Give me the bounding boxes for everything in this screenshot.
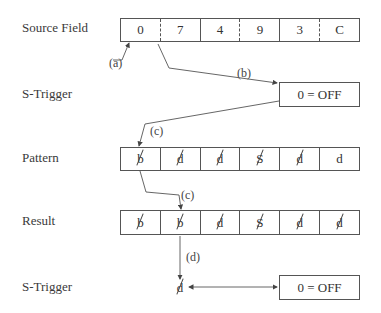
arrow-c-2 [140,171,181,209]
arrow-b [158,44,277,83]
arrow-a [113,43,129,60]
connector-arrows [0,0,381,313]
arrow-c-1 [139,101,279,146]
